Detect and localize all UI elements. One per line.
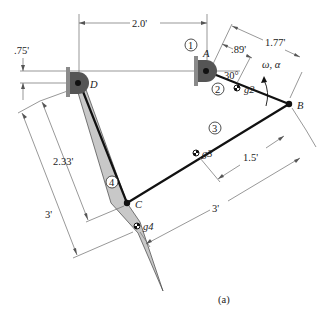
dimension-label-089ft: .89' <box>231 44 246 55</box>
centroid-label-g3: g3 <box>202 148 213 159</box>
dimension-BC: 3' <box>140 130 316 247</box>
angular-velocity-arrow <box>261 76 268 106</box>
dimension-label-075ft: .75' <box>14 45 29 56</box>
link-number-1: 1 <box>185 39 197 51</box>
four-bar-linkage-figure: 2.0' .75' 2.33' 3' 1.77' <box>0 0 319 321</box>
centroid-g3-icon <box>193 150 199 156</box>
centroid-label-g4: g4 <box>143 221 154 232</box>
point-label-D: D <box>89 79 98 90</box>
dimension-label-15ft: 1.5' <box>243 152 258 163</box>
dimension-label-3ft-BC: 3' <box>212 203 219 214</box>
dimension-vertical-offset: .75' <box>14 45 29 100</box>
link-4-edge <box>80 84 127 203</box>
link-4-plate <box>76 84 163 291</box>
omega-alpha-label: ω, α <box>262 59 281 70</box>
dimension-label-233ft: 2.33' <box>53 156 73 167</box>
ground-support-A <box>194 56 217 86</box>
svg-text:3: 3 <box>212 123 217 134</box>
link-number-3: 3 <box>209 122 221 134</box>
point-label-C: C <box>135 199 143 210</box>
link-number-2: 2 <box>212 83 224 95</box>
dimension-label-177ft: 1.77' <box>265 37 285 48</box>
centroid-g2-icon <box>234 85 240 91</box>
angle-label-30: 30° <box>224 70 239 81</box>
dimension-Bg3: 1.5' <box>200 108 306 182</box>
link-number-4: 4 <box>106 176 118 188</box>
svg-text:4: 4 <box>109 177 115 188</box>
dimension-label-2ft: 2.0' <box>132 18 147 29</box>
dimension-label-3ft-DC: 3' <box>45 209 52 220</box>
centroid-label-g2: g2 <box>244 84 255 95</box>
joint-C <box>124 200 130 206</box>
point-label-A: A <box>202 48 210 59</box>
centroid-g4-icon <box>134 223 140 229</box>
svg-text:1: 1 <box>188 40 193 51</box>
dimension-AB: 1.77' <box>213 24 302 98</box>
svg-text:2: 2 <box>215 84 220 95</box>
joint-B <box>286 101 292 107</box>
figure-caption: (a) <box>218 294 230 306</box>
point-label-B: B <box>297 100 304 111</box>
